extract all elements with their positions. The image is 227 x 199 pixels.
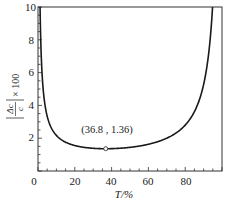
x-tick-label-20: 20: [70, 175, 82, 187]
x-tick-label-40: 40: [106, 175, 118, 187]
y-label-numerator: Δc: [5, 104, 15, 114]
y-tick-label-8: 8: [29, 34, 35, 46]
y-tick-label-10: 10: [25, 1, 37, 13]
chart: 2 4 6 8 10 0 20 40 60 80 T/% Δc c × 100 …: [0, 0, 227, 199]
x-axis-title: T/%: [115, 188, 133, 199]
y-label-suffix: × 100: [10, 74, 21, 97]
x-tick-label-60: 60: [143, 175, 155, 187]
y-tick-label-2: 2: [29, 131, 35, 143]
minimum-point-marker: [104, 147, 108, 151]
x-axis-ticks: [38, 167, 222, 171]
x-tick-label-80: 80: [181, 175, 193, 187]
y-label-denominator: c: [15, 107, 25, 111]
x-tick-label-0: 0: [31, 175, 37, 187]
y-tick-label-4: 4: [29, 99, 35, 111]
y-tick-label-6: 6: [29, 66, 35, 78]
minimum-point-annotation: (36.8 , 1.36): [81, 124, 133, 136]
y-axis-title: Δc c × 100: [5, 74, 25, 118]
plot-frame: [38, 7, 222, 171]
